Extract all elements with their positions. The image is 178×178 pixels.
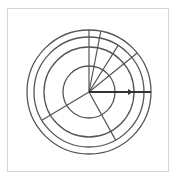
direction-arrow-icon bbox=[89, 89, 151, 95]
polar-diagram bbox=[0, 0, 178, 178]
radial-line-6 bbox=[42, 92, 89, 120]
radial-line-5 bbox=[89, 92, 116, 140]
arrowhead-icon bbox=[128, 89, 133, 95]
